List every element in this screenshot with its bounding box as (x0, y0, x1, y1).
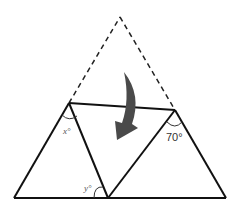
angle-y-arc (94, 187, 103, 198)
left-side (14, 103, 69, 198)
angle-x-label: x° (62, 126, 71, 136)
angle-70-label: 70° (166, 131, 183, 143)
dashed-left-edge (69, 17, 120, 103)
right-side (175, 110, 226, 198)
fold-line (69, 103, 175, 110)
angle-y-label: y° (83, 183, 92, 193)
angle-70-arc (167, 122, 182, 126)
folded-triangle-diagram: x° 70° y° (0, 0, 240, 215)
